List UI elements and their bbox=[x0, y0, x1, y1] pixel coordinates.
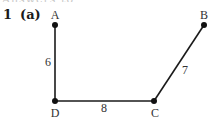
edge-c-b bbox=[154, 25, 204, 101]
vertex-a-label: A bbox=[51, 8, 60, 22]
graph-diagram: A B C D 6 8 7 bbox=[0, 0, 219, 122]
vertex-b-label: B bbox=[200, 8, 208, 22]
edge-c-b-weight: 7 bbox=[182, 63, 188, 77]
vertex-d-dot bbox=[52, 98, 58, 104]
edge-d-c-weight: 8 bbox=[101, 101, 107, 115]
vertex-b-dot bbox=[201, 22, 207, 28]
vertex-d-label: D bbox=[51, 106, 60, 120]
vertex-c-dot bbox=[151, 98, 157, 104]
vertex-c-label: C bbox=[151, 106, 159, 120]
edge-a-d-weight: 6 bbox=[45, 55, 51, 69]
vertex-a-dot bbox=[52, 22, 58, 28]
